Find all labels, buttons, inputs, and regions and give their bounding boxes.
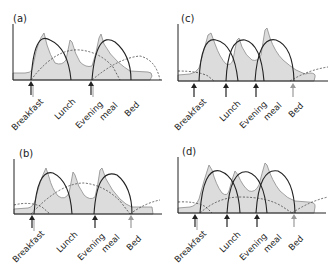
event-label: Breakfast (172, 96, 208, 132)
event-label: Lunch (52, 96, 77, 121)
panel-b-plot: (b) Breakfast Lunch Evening meal Bed (0, 135, 168, 269)
insulin-arrow (223, 83, 229, 97)
event-label: Bed (286, 234, 305, 253)
event-label: Bed (124, 234, 143, 253)
insulin-arrow (192, 214, 198, 230)
event-label: Lunch (217, 98, 242, 123)
panel-label: (b) (19, 148, 33, 159)
insulin-arrow (88, 81, 94, 97)
event-label: Bed (286, 101, 305, 120)
insulin-arrow (291, 214, 297, 227)
panel-a: (a) Breakfast Lunch Evening meal Bed (0, 0, 168, 134)
panel-label: (d) (182, 146, 196, 157)
panel-c: (c) Breakfast Lunch Evening meal Bed (168, 0, 336, 134)
panel-d: (d) Breakfast Lunch Evening meal Bed (168, 135, 336, 269)
insulin-arrow (224, 214, 230, 227)
insulin-arrow (253, 83, 259, 97)
insulin-arrow (128, 215, 134, 228)
insulin-arrow (92, 215, 98, 228)
insulin-arrow (191, 83, 197, 97)
panel-d-plot: (d) Breakfast Lunch Evening meal Bed (168, 135, 336, 269)
event-label: Breakfast (10, 228, 46, 264)
event-label: Breakfast (9, 96, 45, 132)
panel-label: (a) (13, 13, 27, 24)
insulin-arrow (290, 83, 296, 97)
event-label: Lunch (54, 229, 79, 254)
insulin-arrow (28, 81, 34, 97)
panel-b: (b) Breakfast Lunch Evening meal Bed (0, 135, 168, 269)
event-label: Bed (122, 100, 141, 119)
glucose-curve (178, 28, 315, 81)
insulin-arrow (254, 214, 260, 227)
panel-a-plot: (a) Breakfast Lunch Evening meal Bed (0, 0, 168, 134)
insulin-arrow (29, 215, 35, 231)
event-label: Breakfast (172, 228, 208, 264)
event-label: Lunch (217, 229, 242, 254)
panel-label: (c) (181, 13, 194, 24)
panel-c-plot: (c) Breakfast Lunch Evening meal Bed (168, 0, 336, 134)
